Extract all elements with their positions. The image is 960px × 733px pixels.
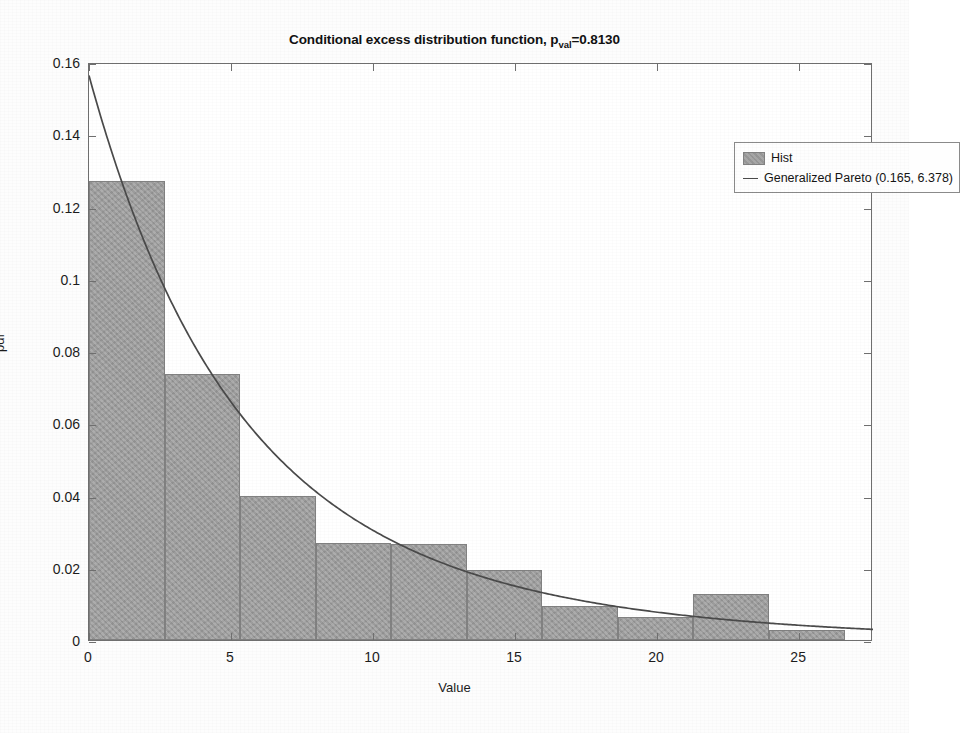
x-axis-label: Value bbox=[0, 680, 909, 695]
x-tick-mark bbox=[657, 64, 658, 71]
y-tick-label: 0 bbox=[16, 633, 80, 649]
y-tick-mark bbox=[89, 425, 96, 426]
chart-title-main: Conditional excess distribution function… bbox=[289, 32, 558, 47]
plot-area: Hist Generalized Pareto (0.165, 6.378) bbox=[88, 63, 872, 641]
y-tick-label: 0.02 bbox=[16, 561, 80, 577]
x-tick-mark bbox=[515, 64, 516, 71]
x-tick-mark bbox=[89, 64, 90, 71]
x-tick-mark bbox=[373, 633, 374, 640]
y-tick-mark bbox=[864, 209, 871, 210]
x-tick-label: 5 bbox=[200, 649, 260, 665]
x-tick-label: 0 bbox=[58, 649, 118, 665]
y-tick-label: 0.12 bbox=[16, 200, 80, 216]
legend-entry-pareto: Generalized Pareto (0.165, 6.378) bbox=[743, 168, 953, 188]
y-tick-mark bbox=[864, 498, 871, 499]
y-tick-mark bbox=[89, 642, 96, 643]
x-tick-mark bbox=[657, 633, 658, 640]
y-tick-mark bbox=[864, 281, 871, 282]
y-tick-label: 0.06 bbox=[16, 416, 80, 432]
y-tick-label: 0.08 bbox=[16, 344, 80, 360]
chart-title-subscript: val bbox=[559, 39, 572, 50]
chart-title-tail: =0.8130 bbox=[571, 32, 619, 47]
y-tick-mark bbox=[89, 281, 96, 282]
y-tick-mark bbox=[864, 64, 871, 65]
x-tick-mark bbox=[231, 633, 232, 640]
chart-title: Conditional excess distribution function… bbox=[0, 32, 909, 50]
legend-entry-hist: Hist bbox=[743, 148, 953, 168]
x-tick-label: 15 bbox=[484, 649, 544, 665]
y-axis-label: pdf bbox=[0, 334, 7, 352]
x-tick-label: 20 bbox=[626, 649, 686, 665]
legend-box: Hist Generalized Pareto (0.165, 6.378) bbox=[734, 142, 960, 193]
x-tick-mark bbox=[89, 633, 90, 640]
y-tick-mark bbox=[89, 570, 96, 571]
y-tick-label: 0.14 bbox=[16, 127, 80, 143]
y-tick-label: 0.1 bbox=[16, 272, 80, 288]
legend-label-pareto: Generalized Pareto (0.165, 6.378) bbox=[764, 171, 953, 185]
y-tick-mark bbox=[89, 64, 96, 65]
y-tick-label: 0.16 bbox=[16, 55, 80, 71]
y-tick-mark bbox=[89, 136, 96, 137]
y-tick-mark bbox=[89, 353, 96, 354]
legend-swatch-icon bbox=[743, 152, 765, 165]
legend-label-hist: Hist bbox=[771, 151, 793, 165]
y-tick-mark bbox=[864, 353, 871, 354]
y-tick-label: 0.04 bbox=[16, 489, 80, 505]
y-tick-mark bbox=[864, 570, 871, 571]
x-tick-mark bbox=[799, 633, 800, 640]
y-tick-mark bbox=[864, 425, 871, 426]
x-tick-label: 10 bbox=[342, 649, 402, 665]
x-tick-mark bbox=[515, 633, 516, 640]
x-tick-mark bbox=[231, 64, 232, 71]
y-tick-mark bbox=[864, 642, 871, 643]
x-tick-mark bbox=[799, 64, 800, 71]
y-tick-mark bbox=[864, 136, 871, 137]
x-tick-mark bbox=[373, 64, 374, 71]
x-tick-label: 25 bbox=[768, 649, 828, 665]
legend-line-icon bbox=[743, 178, 758, 179]
y-tick-mark bbox=[89, 498, 96, 499]
y-tick-mark bbox=[89, 209, 96, 210]
